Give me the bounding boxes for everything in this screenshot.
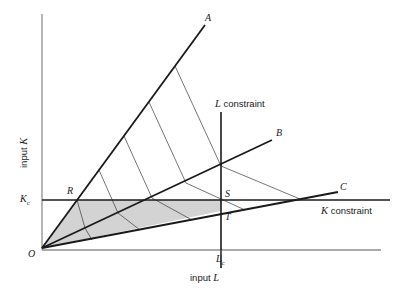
label-point-B: B: [276, 128, 282, 138]
ray-OB: [42, 140, 272, 248]
y-tick-label-kc-sub: c: [27, 199, 30, 207]
k-constraint-label-text: constraint: [328, 205, 372, 216]
y-tick-label-kc-var: K: [20, 193, 27, 204]
k-constraint-label: K constraint: [321, 205, 372, 216]
x-axis-title-var: L: [213, 272, 219, 283]
label-point-T: T: [225, 212, 231, 222]
k-constraint-label-var: K: [321, 205, 328, 216]
label-point-O: O: [28, 249, 35, 259]
label-point-C: C: [340, 182, 347, 192]
l-constraint-label-text: constraint: [221, 98, 265, 109]
y-axis-title-prefix: input: [18, 145, 29, 168]
plot-canvas: [0, 0, 415, 293]
feasible-region-shading: [42, 200, 221, 248]
label-point-S: S: [225, 189, 230, 199]
label-point-A: A: [205, 13, 211, 23]
y-tick-label-kc: Kc: [20, 194, 30, 207]
l-constraint-label: L constraint: [215, 98, 265, 109]
x-axis-title-prefix: input: [190, 272, 213, 283]
isoquant-constraint-figure: input K input L Kc Lc A B C R S T O L co…: [0, 0, 415, 293]
y-axis-title-var: K: [18, 138, 29, 145]
x-tick-label-lc-sub: c: [222, 259, 225, 267]
y-axis-title: input K: [18, 138, 29, 168]
label-point-R: R: [67, 186, 73, 196]
x-tick-label-lc: Lc: [216, 254, 225, 267]
x-axis-title: input L: [190, 272, 219, 283]
